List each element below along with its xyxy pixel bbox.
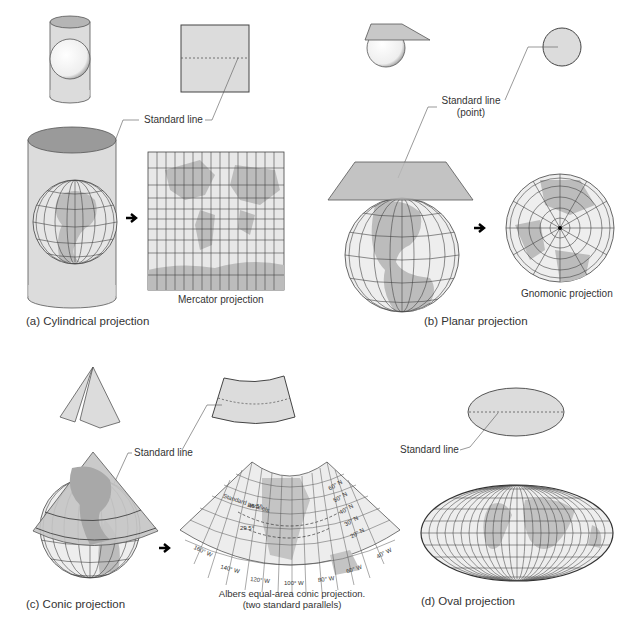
gnomonic-map: [506, 174, 614, 282]
standard-line-label-b: Standard line (point): [440, 95, 502, 118]
projection-diagram: [0, 0, 634, 623]
small-cylinder-icon: [50, 16, 90, 103]
small-oval-map: [468, 388, 564, 436]
small-cone-icon: [60, 367, 120, 428]
albers-subtitle: (two standard parallels): [212, 600, 372, 611]
small-square-map: [181, 25, 249, 92]
arrow-b: [474, 224, 484, 232]
standard-line-label-c: Standard line: [134, 447, 193, 459]
small-conic-map: [212, 376, 295, 424]
lon-label-100w: 100° W: [284, 580, 304, 587]
albers-projection-label: Albers equal-area conic projection. (two…: [212, 589, 372, 611]
standard-line-text: Standard line: [440, 95, 502, 107]
point-text: (point): [440, 107, 502, 119]
parallel-value-2: 29.5°: [240, 525, 254, 532]
globe-b: [345, 198, 459, 312]
globe-a: [33, 180, 117, 264]
caption-conic: (c) Conic projection: [26, 598, 125, 610]
standard-line-label-d: Standard line: [400, 444, 459, 456]
standard-line-label-a: Standard line: [144, 114, 203, 126]
arrow-c: [159, 544, 169, 552]
caption-oval: (d) Oval projection: [421, 595, 515, 607]
tangent-plane: [328, 162, 473, 200]
arrow-a: [126, 214, 136, 222]
mercator-map: [148, 152, 284, 290]
albers-conic-map: [180, 462, 400, 594]
mollweide-map: [421, 485, 613, 581]
mercator-projection-label: Mercator projection: [178, 294, 264, 306]
small-plane-sphere-icon: [365, 24, 430, 67]
caption-cylindrical: (a) Cylindrical projection: [26, 315, 149, 327]
gnomonic-projection-label: Gnomonic projection: [521, 288, 613, 300]
parallel-value-1: 45.5°: [248, 503, 262, 510]
caption-planar: (b) Planar projection: [424, 315, 528, 327]
